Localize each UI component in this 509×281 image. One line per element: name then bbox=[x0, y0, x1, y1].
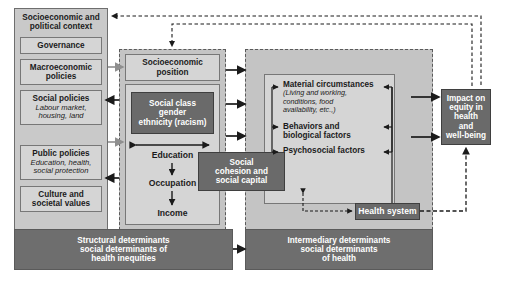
intermediary-banner-line1: Intermediary determinants bbox=[288, 236, 391, 245]
context-item-macroeconomic-policies-line1: Macroeconomic bbox=[30, 63, 92, 72]
context-item-macroeconomic-policies-line2: policies bbox=[46, 72, 77, 81]
impact-line3: health bbox=[454, 112, 478, 121]
social-cohesion-line3: social capital bbox=[216, 176, 267, 185]
education-text: Education bbox=[152, 151, 194, 161]
structural-banner-line2: social determinants of bbox=[80, 245, 167, 254]
impact-line4: and bbox=[459, 122, 474, 131]
occupation-text: Occupation bbox=[149, 179, 196, 189]
socioeconomic-position-line1: Socioeconomic bbox=[142, 58, 203, 67]
factor-psychosocial-label: Psychosocial factors bbox=[283, 146, 365, 155]
intermediary-banner-line3: of health bbox=[322, 254, 356, 263]
social-cohesion-line1: Social bbox=[229, 158, 253, 167]
context-item-culture-line1: Culture and bbox=[38, 190, 84, 199]
health-system-box: Health system bbox=[355, 203, 420, 220]
factor-behaviors-biological: Behaviors and biological factors bbox=[283, 122, 388, 144]
impact-line1: Impact on bbox=[447, 94, 486, 103]
income-label: Income bbox=[131, 208, 214, 220]
impact-equity-box: Impact on equity in health and well-bein… bbox=[441, 89, 491, 145]
factor-material-circumstances: Material circumstances (Living and worki… bbox=[283, 80, 388, 120]
diagram-canvas: Socioeconomic and political context Gove… bbox=[0, 0, 509, 281]
context-item-governance: Governance bbox=[20, 37, 102, 54]
health-system-label: Health system bbox=[358, 207, 416, 217]
context-header: Socioeconomic and political context bbox=[16, 11, 106, 33]
social-class-line1: Social class bbox=[149, 99, 196, 108]
context-item-governance-label: Governance bbox=[37, 41, 84, 50]
impact-line5: well-being bbox=[446, 131, 486, 140]
social-cohesion-social-capital-box: Social cohesion and social capital bbox=[198, 152, 285, 191]
context-item-social-policies-sub-line2: housing, land bbox=[38, 112, 83, 121]
impact-line2: equity in bbox=[449, 103, 483, 112]
factor-psychosocial: Psychosocial factors bbox=[283, 146, 388, 158]
context-item-macroeconomic-policies: Macroeconomic policies bbox=[20, 59, 102, 85]
factor-behaviors-line2: biological factors bbox=[283, 131, 351, 140]
social-class-line3: ethnicity (racism) bbox=[139, 118, 207, 127]
factor-material-detail-line3: availability, etc.,) bbox=[283, 106, 336, 114]
factor-behaviors-line1: Behaviors and bbox=[283, 122, 339, 131]
income-text: Income bbox=[157, 209, 187, 219]
structural-determinants-banner: Structural determinants social determina… bbox=[14, 229, 233, 270]
context-item-culture-line2: societal values bbox=[32, 199, 90, 208]
structural-banner-line3: health inequities bbox=[91, 254, 156, 263]
context-item-public-policies-sub-line2: social protection bbox=[34, 167, 89, 176]
social-class-line2: gender bbox=[159, 108, 186, 117]
intermediary-determinants-banner: Intermediary determinants social determi… bbox=[245, 229, 433, 270]
socioeconomic-position-box: Socioeconomic position bbox=[125, 54, 220, 81]
context-item-public-policies: Public policies Education, health, socia… bbox=[20, 145, 102, 180]
social-cohesion-line2: cohesion and bbox=[215, 167, 268, 176]
structural-banner-line1: Structural determinants bbox=[77, 236, 169, 245]
context-item-culture-societal-values: Culture and societal values bbox=[20, 186, 102, 212]
socioeconomic-position-line2: position bbox=[157, 68, 189, 77]
social-class-gender-ethnicity-box: Social class gender ethnicity (racism) bbox=[131, 92, 214, 134]
context-item-social-policies: Social policies Labour market, housing, … bbox=[20, 90, 102, 125]
context-header-line1: Socioeconomic and bbox=[22, 13, 99, 22]
intermediary-banner-line2: social determinants bbox=[301, 245, 378, 254]
context-header-line2: political context bbox=[30, 22, 92, 31]
